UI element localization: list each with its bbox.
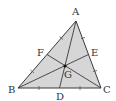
label-g: G [64, 69, 72, 80]
triangle-diagram: A B C D E F G [0, 0, 116, 101]
label-d: D [56, 91, 64, 101]
triangle-abc [18, 21, 101, 88]
label-b: B [8, 84, 15, 95]
label-f: F [37, 47, 44, 58]
label-e: E [91, 47, 98, 58]
label-a: A [71, 6, 80, 17]
centroid-g-point [63, 64, 66, 67]
label-c: C [103, 84, 111, 95]
